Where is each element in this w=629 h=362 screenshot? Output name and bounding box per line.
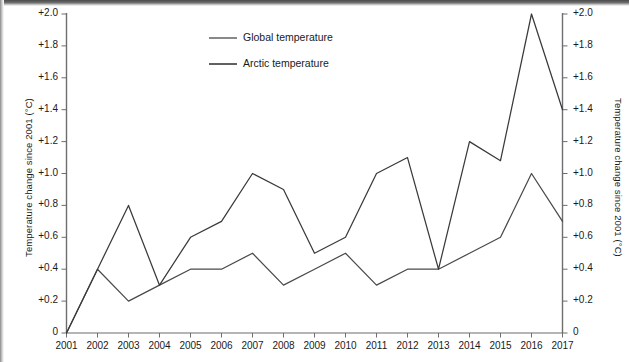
temperature-line-chart: Temperature change since 2001 (°C) Tempe… bbox=[0, 0, 629, 362]
plot-area bbox=[0, 0, 629, 362]
series-line-arctic bbox=[67, 14, 563, 333]
